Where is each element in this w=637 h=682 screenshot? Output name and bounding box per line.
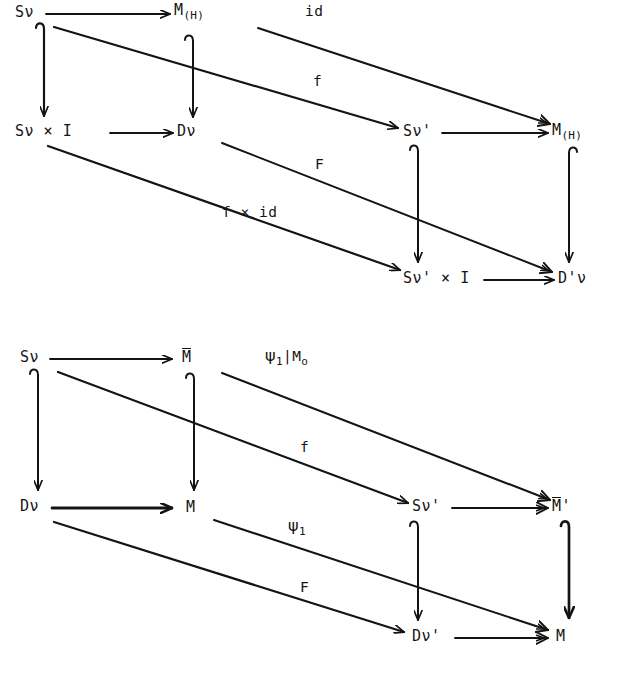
commutative-diagram-1: Sν M(H) M(H) Sν' Sν × I Dν Sν' × I D'ν i… xyxy=(0,0,637,310)
diagonal-arrow-id xyxy=(258,28,550,124)
node-m-bar: M xyxy=(182,350,192,365)
node-dv-prime: Dν' xyxy=(412,629,441,644)
edge-label-id: id xyxy=(305,4,323,19)
diagonal-arrow-f2 xyxy=(58,372,408,503)
edge-label-f-2: f xyxy=(300,440,309,455)
figure-canvas: Sν M(H) M(H) Sν' Sν × I Dν Sν' × I D'ν i… xyxy=(0,0,637,682)
node-sv-times-i: Sν × I xyxy=(15,124,72,139)
edge-label-f: f xyxy=(313,74,322,89)
hook-arrow-mh2-to-dpv xyxy=(569,147,577,262)
node-sv-prime-times-i: Sν' × I xyxy=(403,271,470,286)
hook-arrow-svp-to-svpxi xyxy=(410,145,418,262)
restriction-bar: | xyxy=(283,348,292,364)
node-sv-top-left-2: Sν xyxy=(20,350,39,365)
psi-glyph: ψ xyxy=(288,516,299,535)
diagonal-arrow-psi1-restricted xyxy=(222,373,550,500)
node-m-h-top-mid: M(H) xyxy=(174,3,204,21)
hook-arrow-mbarp-to-m xyxy=(561,521,569,618)
node-d-prime-v: D'ν xyxy=(558,271,587,286)
edge-label-psi1-restricted: ψ1|Mo xyxy=(265,348,308,367)
psi-glyph: ψ xyxy=(265,346,276,365)
psi-subscript-1: 1 xyxy=(299,525,306,538)
subscript-h: (H) xyxy=(562,129,582,142)
prime-mark: ' xyxy=(562,497,572,515)
edge-label-F-2: F xyxy=(300,580,309,595)
hook-arrow-mh-to-dv xyxy=(185,35,193,117)
node-dv: Dν xyxy=(177,124,196,139)
diagram-1-arrows xyxy=(0,0,637,310)
node-sv-top-left: Sν xyxy=(15,5,34,20)
hook-arrow-sv-to-dv xyxy=(30,369,38,490)
subscript-h: (H) xyxy=(184,9,204,22)
hook-arrow-mbar-to-m xyxy=(186,373,194,490)
node-m-mid: M xyxy=(186,500,196,515)
commutative-diagram-2: Sν M M' Sν' Dν M Dν' M ψ1|Mo f ψ1 xyxy=(0,330,637,682)
hook-arrow-svp-to-dvp xyxy=(410,521,418,620)
edge-label-f-times-id: f × id xyxy=(222,205,277,220)
node-m-bottom-right: M xyxy=(556,629,566,644)
node-sv-prime: Sν' xyxy=(403,124,432,139)
diagram-2-arrows xyxy=(0,330,637,682)
node-sv-prime-2: Sν' xyxy=(412,499,441,514)
overbar-m: M xyxy=(182,350,192,365)
edge-label-psi1: ψ1 xyxy=(288,518,306,537)
node-m-bar-prime: M' xyxy=(552,499,571,514)
diagonal-arrow-F2 xyxy=(54,522,404,632)
overbar-m: M xyxy=(552,499,562,514)
diagonal-arrow-psi1 xyxy=(214,520,548,630)
psi-subscript-1: 1 xyxy=(276,355,283,368)
edge-label-F: F xyxy=(315,157,324,172)
diagonal-arrow-f xyxy=(54,27,398,128)
node-dv-2: Dν xyxy=(20,499,39,514)
node-m-h-top-right: M(H) xyxy=(552,123,582,141)
m-glyph: M xyxy=(292,348,301,364)
m-subscript-o: o xyxy=(301,355,308,368)
hook-arrow-sv-to-svxi xyxy=(36,23,44,116)
